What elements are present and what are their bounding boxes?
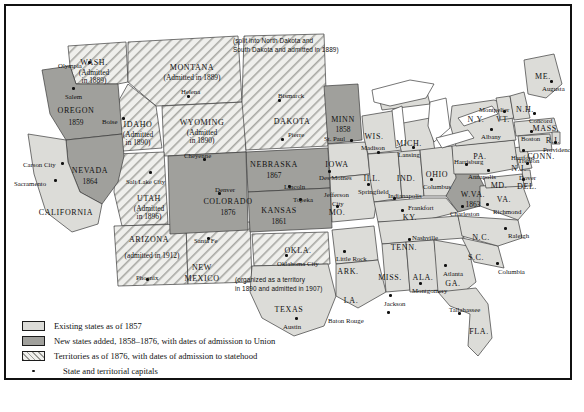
capital-dot [487, 169, 490, 172]
legend-swatch-territories [22, 351, 45, 361]
capital-dot [522, 149, 525, 152]
capital-dot [218, 192, 221, 195]
capital-dot [401, 209, 404, 212]
capital-dot [299, 198, 302, 201]
capital-dot [187, 95, 190, 98]
capital-dot [554, 141, 557, 144]
capital-dot [328, 170, 331, 173]
capital-dot [203, 158, 206, 161]
capital-dot [526, 162, 529, 165]
map-legend: Existing states as of 1857 New states ad… [22, 319, 322, 378]
capital-dot [278, 99, 281, 102]
capital-dot [496, 262, 499, 265]
legend-label-territories: Territories as of 1876, with dates of ad… [54, 351, 257, 361]
capital-dot [61, 162, 64, 165]
capital-dot [461, 205, 464, 208]
capital-dot [503, 110, 506, 113]
capital-dot [146, 278, 149, 281]
capital-dot [444, 264, 447, 267]
legend-label-new-states: New states added, 1858–1876, with dates … [54, 336, 275, 346]
legend-swatch-existing-states [22, 321, 45, 331]
capital-dot [504, 227, 507, 230]
legend-item-capitals: State and territorial capitals [22, 364, 322, 378]
legend-label-capitals: State and territorial capitals [63, 366, 158, 376]
capital-dot [486, 203, 489, 206]
capital-dot [393, 197, 396, 200]
legend-item-existing-states: Existing states as of 1857 [22, 319, 322, 333]
capital-dot [530, 130, 533, 133]
capital-dot [122, 117, 125, 120]
capital-dot-icon [22, 370, 45, 373]
map-screenshot: WASH.(Admittedin 1889)OlympiaOREGON1859S… [0, 0, 584, 412]
capital-dot [419, 282, 422, 285]
capital-dot [350, 139, 353, 142]
capital-dot [281, 138, 284, 141]
capital-dot [285, 254, 288, 257]
capital-dot [522, 178, 525, 181]
capital-dot [430, 178, 433, 181]
capital-dot [54, 179, 57, 182]
capital-dot [288, 185, 291, 188]
capital-dot [207, 237, 210, 240]
capital-dot [72, 87, 75, 90]
legend-swatch-new-states [22, 336, 45, 346]
capital-dot [533, 112, 536, 115]
capital-dot [412, 146, 415, 149]
capital-dot [458, 312, 461, 315]
capital-dot [490, 128, 493, 131]
capital-dot [550, 80, 553, 83]
map-frame: WASH.(Admittedin 1889)OlympiaOREGON1859S… [4, 4, 572, 380]
legend-label-existing-states: Existing states as of 1857 [54, 321, 142, 331]
capital-dot [408, 238, 411, 241]
capital-dot [387, 311, 390, 314]
legend-item-territories: Territories as of 1876, with dates of ad… [22, 349, 322, 363]
capital-dot [389, 294, 392, 297]
capital-dot [149, 171, 152, 174]
legend-item-new-states: New states added, 1858–1876, with dates … [22, 334, 322, 348]
capital-dot [465, 163, 468, 166]
capital-dot [343, 250, 346, 253]
capital-dot [377, 151, 380, 154]
capital-dot [88, 61, 91, 64]
capital-dot [336, 205, 339, 208]
capital-dot [367, 183, 370, 186]
